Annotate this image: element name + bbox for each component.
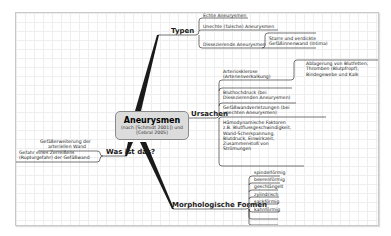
leaf-bluthochdruck[interactable]: Bluthochdruck (bei Dissezierenden Aneury… (223, 90, 290, 101)
leaf-rupturgefahr[interactable]: Gefahr eines Zerreißens (Rupturgefahr) d… (19, 150, 90, 161)
leaf-dissezierende-aneurysmen[interactable]: Dissezierende Aneurysmen (203, 42, 266, 47)
mindmap-canvas: Aneurysmen (nach [Schmidt 2001]) und [Ce… (15, 12, 379, 226)
branch-typen[interactable]: Typen (171, 27, 194, 35)
leaf-unechte-aneurysmen[interactable]: Unechte (falsche) Aneurysmen (203, 24, 274, 29)
leaf-starre-intima[interactable]: Starre und verdickte Gefäßinnenwand (Int… (269, 36, 328, 47)
leaf-spindelfoermig[interactable]: spindelförmig (254, 170, 285, 175)
central-topic-title: Aneurysmen (124, 116, 180, 125)
leaf-zylindrisch[interactable]: zylindrisch (254, 192, 279, 197)
leaf-geschlaengelt[interactable]: geschlängelt (254, 184, 283, 189)
central-topic-node[interactable]: Aneurysmen (nach [Schmidt 2001]) und [Ce… (115, 111, 189, 140)
leaf-beerenfoermig[interactable]: beerenförmig (254, 177, 285, 182)
leaf-echte-aneurysmen[interactable]: Echte Aneurysmen (203, 13, 246, 18)
leaf-ablagerung[interactable]: Ablagerung von Blutfetten, Thromben (Blu… (306, 61, 368, 77)
branch-morphologische-formen[interactable]: Morphologische Formen (172, 201, 267, 209)
leaf-gefaesswandverletzungen[interactable]: Gefäßwandverletzungen (bei unechten Aneu… (223, 105, 290, 116)
central-topic-source-line2: [Cebral 2005] (136, 130, 168, 135)
branch-was-ist-das[interactable]: Was ist das? (106, 148, 155, 156)
branch-line-typen (135, 35, 159, 111)
leaf-arteriosklerose[interactable]: Arteriosklerose (Arterienverkalkung) (223, 69, 271, 80)
leaf-gefaesserweiterung[interactable]: Gefäßerweiterung der arteriellen Wand (40, 139, 91, 150)
leaf-kahnfoermig[interactable]: kahnförmig (254, 207, 280, 212)
leaf-sackfoermig[interactable]: sackförmig (254, 199, 279, 204)
leaf-haemodynamische-faktoren[interactable]: Hämodynamische Faktoren z.B. Blutflussge… (223, 120, 291, 152)
